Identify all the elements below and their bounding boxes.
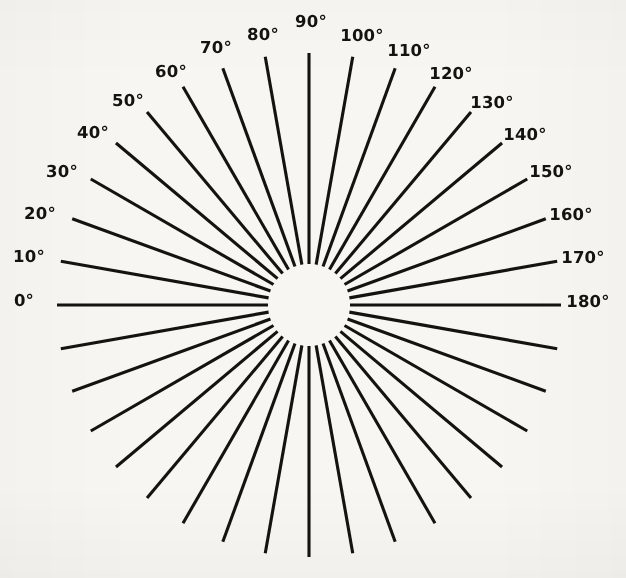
angle-label-90deg: 90° (295, 14, 327, 31)
angle-label-40deg: 40° (77, 125, 109, 142)
angle-label-50deg: 50° (112, 93, 144, 110)
angle-label-70deg: 70° (200, 40, 232, 57)
angle-label-110deg: 110° (387, 43, 431, 60)
angle-label-0deg: 0° (14, 293, 34, 310)
angle-label-layer: 0°10°20°30°40°50°60°70°80°90°100°110°120… (0, 0, 626, 578)
angle-label-10deg: 10° (13, 249, 45, 266)
angle-label-170deg: 170° (561, 250, 605, 267)
angle-label-150deg: 150° (529, 164, 573, 181)
angle-label-130deg: 130° (470, 95, 514, 112)
angle-label-80deg: 80° (247, 27, 279, 44)
angle-label-100deg: 100° (340, 28, 384, 45)
angle-label-180deg: 180° (566, 294, 610, 311)
angle-label-20deg: 20° (24, 206, 56, 223)
angle-label-140deg: 140° (503, 127, 547, 144)
angle-label-30deg: 30° (46, 164, 78, 181)
angle-label-60deg: 60° (155, 64, 187, 81)
radial-diagram-figure: 0°10°20°30°40°50°60°70°80°90°100°110°120… (0, 0, 626, 578)
angle-label-120deg: 120° (429, 66, 473, 83)
angle-label-160deg: 160° (549, 207, 593, 224)
